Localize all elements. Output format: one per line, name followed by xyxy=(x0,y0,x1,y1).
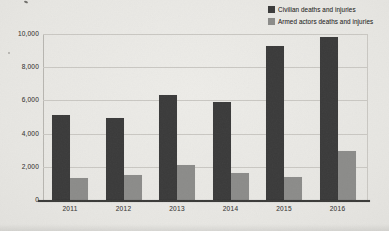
plot-area xyxy=(43,34,367,200)
legend-swatch-armed-actors xyxy=(268,18,275,25)
bar-armed-actors-2016 xyxy=(338,151,356,200)
y-tick-label-10000: 10,000 xyxy=(0,30,39,38)
y-tick-label-2000: 2,000 xyxy=(0,163,39,171)
bar-civilian-2014 xyxy=(213,102,231,200)
x-tick-label-2012: 2012 xyxy=(104,205,144,213)
legend: Civilian deaths and injuries Armed actor… xyxy=(268,5,373,29)
legend-item-armed-actors: Armed actors deaths and injuries xyxy=(268,17,373,26)
gridline-2000 xyxy=(43,167,367,168)
bar-armed-actors-2015 xyxy=(284,177,302,200)
x-tick-label-2015: 2015 xyxy=(264,205,304,213)
legend-item-civilian: Civilian deaths and injuries xyxy=(268,5,373,14)
legend-label-armed-actors: Armed actors deaths and injuries xyxy=(278,18,373,26)
gridline-10000 xyxy=(43,34,367,35)
y-tick-label-0: 0 xyxy=(0,196,39,204)
gridline-4000 xyxy=(43,134,367,135)
x-axis-line xyxy=(38,200,370,202)
x-tick-label-2016: 2016 xyxy=(318,205,358,213)
casualties-bar-chart: 02,0004,0006,0008,00010,000 201120122013… xyxy=(0,0,389,231)
bar-armed-actors-2011 xyxy=(70,178,88,200)
bar-civilian-2016 xyxy=(320,37,338,200)
gridline-6000 xyxy=(43,100,367,101)
bar-armed-actors-2014 xyxy=(231,173,249,200)
y-tick-label-4000: 4,000 xyxy=(0,130,39,138)
bar-armed-actors-2013 xyxy=(177,165,195,200)
x-tick-label-2011: 2011 xyxy=(50,205,90,213)
plot-right-border xyxy=(367,34,368,200)
y-tick-label-6000: 6,000 xyxy=(0,96,39,104)
bar-armed-actors-2012 xyxy=(124,175,142,200)
bar-civilian-2012 xyxy=(106,118,124,200)
legend-label-civilian: Civilian deaths and injuries xyxy=(278,6,356,14)
scanned-document-page: 02,0004,0006,0008,00010,000 201120122013… xyxy=(0,0,389,231)
bar-civilian-2015 xyxy=(266,46,284,200)
bar-civilian-2013 xyxy=(159,95,177,200)
bar-civilian-2011 xyxy=(52,115,70,200)
gridline-8000 xyxy=(43,67,367,68)
legend-swatch-civilian xyxy=(268,6,275,13)
x-tick-label-2014: 2014 xyxy=(211,205,251,213)
y-tick-label-8000: 8,000 xyxy=(0,63,39,71)
x-tick-label-2013: 2013 xyxy=(157,205,197,213)
